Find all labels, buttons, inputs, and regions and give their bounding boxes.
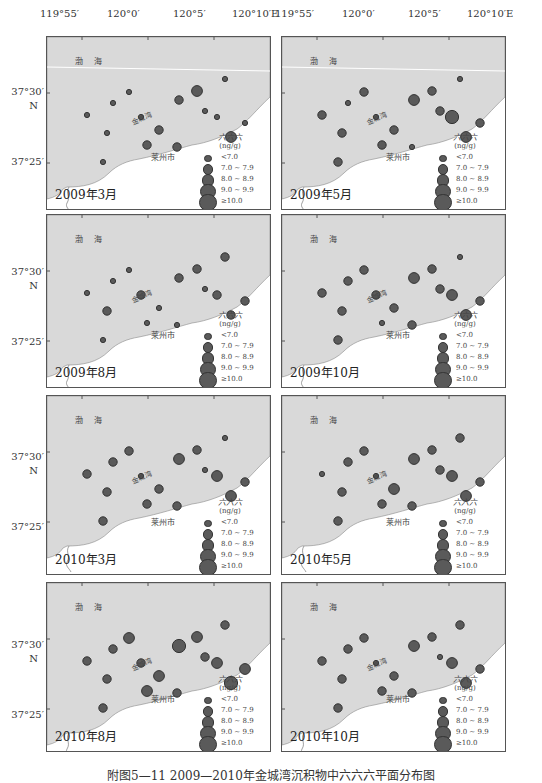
legend-unit: (ng/g) [430, 684, 500, 692]
station-dot [109, 645, 117, 653]
legend-class-label: ≥10.0 [221, 197, 242, 205]
legend-class-label: <7.0 [221, 153, 238, 161]
station-dot [409, 454, 420, 465]
sea-label: 渤 海 [75, 414, 106, 425]
station-dot [193, 446, 201, 454]
legend-circle-icon [439, 155, 446, 162]
station-dot [334, 158, 342, 166]
station-dot [103, 675, 111, 683]
station-dot [390, 126, 398, 134]
legend-class-label: ≥10.0 [456, 562, 477, 570]
station-dot [124, 633, 135, 644]
station-dot [456, 621, 464, 629]
legend-circle-icon [434, 194, 452, 210]
city-label: 莱州市 [151, 151, 175, 162]
legend-class-label: 9.0 ~ 9.9 [221, 186, 254, 194]
legend-unit: (ng/g) [430, 507, 500, 515]
lon-label: 120°5′ [408, 8, 441, 19]
legend-row: 7.0 ~ 7.9 [430, 705, 500, 716]
legend-circle-icon [439, 333, 446, 340]
map-panel: 渤 海 金城湾 莱州市 2010年3月 六六六 (ng/g) <7.0 7.0 … [46, 395, 271, 575]
station-dot [175, 274, 183, 282]
station-dot [84, 290, 89, 295]
legend-row: ≥10.0 [430, 374, 500, 385]
legend-class-label: ≥10.0 [221, 562, 242, 570]
legend-class-label: 8.0 ~ 8.9 [221, 353, 254, 361]
station-dot [447, 471, 458, 482]
legend-class-label: 9.0 ~ 9.9 [221, 728, 254, 736]
legend-row: <7.0 [430, 152, 500, 163]
lat-label: 37°25′ [4, 521, 44, 533]
station-dot [338, 675, 346, 683]
legend-class-label: 7.0 ~ 7.9 [221, 164, 254, 172]
panel-title: 2009年8月 [55, 363, 117, 380]
legend: 六六六 (ng/g) <7.0 7.0 ~ 7.9 8.0 ~ 8.9 9.0 … [195, 496, 265, 572]
station-dot [456, 434, 464, 442]
station-dot [338, 307, 346, 315]
station-dot [409, 641, 420, 652]
station-dot [143, 500, 151, 508]
legend-class-label: 8.0 ~ 8.9 [221, 175, 254, 183]
legend: 六六六 (ng/g) <7.0 7.0 ~ 7.9 8.0 ~ 8.9 9.0 … [430, 309, 500, 385]
legend-row: ≥10.0 [195, 374, 265, 385]
sea-label: 渤 海 [310, 601, 341, 612]
station-dot [318, 289, 326, 297]
station-dot [378, 500, 386, 508]
station-dot [338, 488, 346, 496]
legend-class-label: <7.0 [221, 518, 238, 526]
station-dot [360, 634, 368, 642]
station-dot [173, 502, 181, 510]
sea-label: 渤 海 [75, 55, 106, 66]
lon-labels-right: 119°55′ 120°0′ 120°5′ 120°10′E [275, 8, 542, 22]
station-dot [344, 645, 352, 653]
station-dot [242, 120, 247, 125]
legend-class-label: ≥10.0 [456, 375, 477, 383]
legend-title: 六六六 [195, 496, 265, 507]
legend-row: ≥10.0 [195, 738, 265, 749]
lon-label: 119°55′ [40, 8, 79, 19]
legend-title: 六六六 [195, 309, 265, 320]
sea-label: 渤 海 [75, 233, 106, 244]
panel-title: 2009年5月 [290, 185, 352, 202]
city-label: 莱州市 [151, 693, 175, 704]
legend-circle-icon [199, 194, 217, 210]
legend-class-label: <7.0 [456, 153, 473, 161]
legend: 六六六 (ng/g) <7.0 7.0 ~ 7.9 8.0 ~ 8.9 9.0 … [195, 309, 265, 385]
panel-title: 2009年10月 [290, 363, 360, 380]
legend-unit: (ng/g) [195, 142, 265, 150]
legend-circle-icon [199, 372, 217, 388]
city-label: 莱州市 [386, 151, 410, 162]
legend-circle-icon [434, 372, 452, 388]
legend-circle-icon [439, 697, 446, 704]
map-panel: 渤 海 金城湾 莱州市 2010年10月 六六六 (ng/g) <7.0 7.0… [281, 582, 506, 752]
station-dot [174, 454, 185, 465]
station-dot [125, 447, 133, 455]
station-dot [154, 671, 165, 682]
legend-row: <7.0 [430, 517, 500, 528]
station-dot [319, 471, 324, 476]
station-dot [436, 107, 444, 115]
legend-row: ≥10.0 [430, 738, 500, 749]
station-dot [172, 639, 185, 652]
station-dot [175, 96, 183, 104]
station-dot [212, 658, 223, 669]
lat-label: N [0, 100, 38, 112]
station-dot [192, 632, 203, 643]
legend-class-label: 7.0 ~ 7.9 [221, 342, 254, 350]
station-dot [436, 466, 444, 474]
station-dot [476, 297, 484, 305]
legend-unit: (ng/g) [195, 684, 265, 692]
legend-row: ≥10.0 [195, 196, 265, 207]
station-dot [378, 141, 386, 149]
station-dot [476, 119, 484, 127]
lat-label: N [0, 653, 38, 665]
legend-class-label: <7.0 [456, 331, 473, 339]
station-dot [202, 467, 207, 472]
legend-class-label: 8.0 ~ 8.9 [456, 540, 489, 548]
sea-label: 渤 海 [75, 601, 106, 612]
station-dot [104, 130, 109, 135]
station-dot [379, 320, 384, 325]
station-dot [408, 321, 416, 329]
panel-title: 2009年3月 [55, 185, 117, 202]
legend-class-label: 7.0 ~ 7.9 [456, 706, 489, 714]
